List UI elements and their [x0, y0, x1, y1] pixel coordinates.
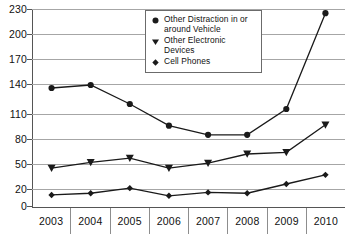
triangle-down-marker [151, 36, 162, 47]
data-point-marker [322, 10, 328, 16]
legend-item-label: Other Electronic Devices [164, 36, 256, 55]
y-axis-tick-mark [27, 164, 32, 165]
y-axis-tick-label: 80 [1, 133, 27, 145]
data-point-marker [166, 193, 172, 199]
x-axis-tick-label: 2005 [110, 208, 149, 234]
y-axis-tick-label: 0 [1, 200, 27, 212]
x-axis-tick-label: 2003 [32, 208, 70, 234]
legend-item-label: Cell Phones [164, 57, 210, 67]
x-axis: 20032004200520062007200820092010 [32, 207, 345, 234]
data-point-marker [127, 101, 133, 107]
data-point-marker [244, 132, 250, 138]
y-axis-tick-label: 50 [1, 158, 27, 170]
legend-item[interactable]: Other Electronic Devices [151, 36, 256, 55]
legend-item-label: Other Distraction in oraround Vehicle [164, 15, 248, 34]
chart-legend: Other Distraction in oraround VehicleOth… [145, 10, 262, 73]
data-point-marker [48, 85, 54, 91]
y-axis-tick-label: 110 [1, 108, 27, 120]
y-axis-tick-mark [27, 206, 32, 207]
data-point-marker [322, 172, 328, 178]
x-axis-tick-label: 2008 [227, 208, 266, 234]
data-point-marker [166, 123, 172, 129]
data-point-marker [283, 181, 289, 187]
y-axis-tick-mark [27, 114, 32, 115]
y-axis-tick-mark [27, 34, 32, 35]
y-axis-tick-label: 230 [1, 3, 27, 15]
y-axis-tick-mark [27, 59, 32, 60]
y-axis-tick-label: 170 [1, 53, 27, 65]
data-point-marker [205, 132, 211, 138]
data-point-marker [87, 190, 93, 196]
y-axis-tick-label: 200 [1, 28, 27, 40]
y-axis: 0205080110140170200230 [0, 0, 27, 235]
circle-marker [151, 15, 162, 26]
series-triangle-down [48, 121, 330, 172]
line-chart: 0205080110140170200230 20032004200520062… [0, 0, 348, 235]
diamond-marker [151, 57, 162, 68]
y-axis-tick-label: 140 [1, 78, 27, 90]
data-point-marker [88, 82, 94, 88]
data-point-marker [205, 189, 211, 195]
x-axis-tick-label: 2009 [267, 208, 306, 234]
legend-item[interactable]: Cell Phones [151, 57, 256, 68]
y-axis-tick-mark [27, 139, 32, 140]
series-diamond [48, 172, 328, 199]
data-point-marker [48, 192, 54, 198]
data-point-marker [244, 190, 250, 196]
x-axis-tick-label: 2004 [70, 208, 109, 234]
x-axis-tick-label: 2006 [149, 208, 188, 234]
x-axis-tick-label: 2010 [306, 208, 345, 234]
x-axis-tick-label: 2007 [188, 208, 227, 234]
data-point-marker [283, 106, 289, 112]
y-axis-tick-label: 20 [1, 183, 27, 195]
data-point-marker [127, 185, 133, 191]
legend-item[interactable]: Other Distraction in oraround Vehicle [151, 15, 256, 34]
y-axis-tick-mark [27, 84, 32, 85]
y-axis-tick-mark [27, 189, 32, 190]
y-axis-tick-mark [27, 9, 32, 10]
